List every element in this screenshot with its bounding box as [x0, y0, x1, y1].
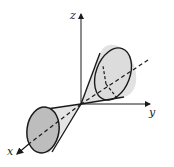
x-axis-label: x: [7, 146, 13, 157]
lower-cone: [24, 104, 81, 155]
upper-cone: [81, 43, 138, 105]
diagram-canvas: [0, 0, 174, 167]
y-axis-label: y: [149, 107, 155, 118]
double-cone-figure: z y x: [0, 0, 174, 167]
z-axis-label: z: [70, 10, 76, 21]
